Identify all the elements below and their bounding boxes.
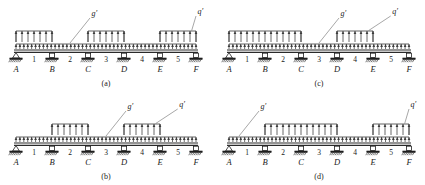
ground-hatch — [331, 59, 333, 62]
roller-block — [370, 53, 375, 57]
dead-load-arrow-head — [120, 137, 123, 140]
ground-hatch — [339, 59, 341, 62]
dead-load-arrow-head — [163, 137, 166, 140]
span-label-2: 2 — [68, 55, 72, 64]
ground-hatch — [45, 59, 47, 62]
ground-hatch — [405, 59, 407, 62]
dead-load-arrow-head — [187, 44, 190, 47]
dead-load-arrow-head — [333, 44, 336, 47]
dead-load-arrow-head — [259, 44, 262, 47]
ground-hatch — [189, 59, 191, 62]
live-load-q-prime — [264, 124, 411, 135]
ground-hatch — [409, 152, 411, 155]
ground-hatch — [231, 152, 233, 155]
support-c — [81, 53, 95, 62]
dead-load-arrow-head — [62, 137, 65, 140]
live-load-leader — [369, 16, 391, 31]
live-load-arrow-head — [33, 31, 36, 34]
live-load-arrow-head — [360, 31, 363, 34]
ground-hatch — [412, 59, 414, 62]
ground-bar — [118, 58, 130, 59]
live-load-arrow-head — [63, 124, 66, 127]
support-f — [402, 53, 416, 62]
panel-b-drawing: ABCDEF12345g′q′(b) — [0, 93, 212, 185]
support-label-b: B — [49, 64, 54, 74]
dead-load-arrow-head — [54, 137, 57, 140]
dead-load-arrow-head — [19, 44, 22, 47]
ground-bar — [223, 151, 235, 152]
ground-hatch — [162, 59, 164, 62]
ground-hatch — [411, 59, 413, 62]
ground-hatch — [190, 152, 192, 155]
ground-hatch — [199, 59, 201, 62]
ground-hatch — [124, 152, 126, 155]
live-load-arrow-head — [372, 124, 375, 127]
dead-load-arrow-head — [152, 137, 155, 140]
panel-d: ABCDEF12345g′q′(d) — [213, 93, 425, 185]
ground-bar — [331, 58, 343, 59]
dead-load-arrow-head — [380, 44, 383, 47]
live-load-arrow-head — [171, 31, 174, 34]
dead-load-arrow-head — [372, 44, 375, 47]
panel-a: ABCDEF12345g′q′(a) — [0, 0, 212, 92]
ground-hatch — [16, 152, 18, 155]
ground-hatch — [122, 59, 124, 62]
dead-load-arrow-head — [26, 44, 29, 47]
dead-load-arrow-head — [195, 44, 198, 47]
support-label-d: D — [333, 64, 341, 74]
live-load-arrow-head — [123, 124, 126, 127]
roller-block — [298, 146, 303, 150]
live-load-arrow-head — [159, 124, 162, 127]
support-label-b: B — [262, 157, 267, 167]
ground-hatch — [156, 152, 158, 155]
dead-load-label: g′ — [341, 9, 347, 18]
ground-hatch — [376, 152, 378, 155]
span-label-4: 4 — [353, 148, 357, 157]
ground-hatch — [162, 152, 164, 155]
ground-hatch — [46, 59, 48, 62]
span-label-5: 5 — [389, 148, 393, 157]
ground-hatch — [231, 59, 233, 62]
ground-hatch — [223, 152, 225, 155]
ground-hatch — [335, 59, 337, 62]
ground-bar — [154, 58, 166, 59]
dead-load-arrow-head — [369, 44, 372, 47]
dead-load-arrow-head — [251, 137, 254, 140]
ground-hatch — [367, 152, 369, 155]
ground-hatch — [331, 152, 333, 155]
dead-load-arrow-head — [77, 44, 80, 47]
ground-hatch — [402, 152, 404, 155]
ground-hatch — [12, 152, 14, 155]
ground-hatch — [88, 152, 90, 155]
ground-hatch — [82, 59, 84, 62]
dead-load-arrow-head — [93, 137, 96, 140]
live-load-arrow-head — [312, 124, 315, 127]
dead-load-arrow-head — [228, 44, 231, 47]
dead-load-arrow-head — [132, 44, 135, 47]
panel-b: ABCDEF12345g′q′(b) — [0, 93, 212, 185]
dead-load-arrow-head — [124, 137, 127, 140]
ground-hatch — [340, 59, 342, 62]
dead-load-arrow-head — [50, 137, 53, 140]
support-label-a: A — [12, 64, 19, 74]
dead-load-arrow-head — [318, 44, 321, 47]
live-load-arrow-head — [306, 124, 309, 127]
ground-hatch — [19, 152, 21, 155]
live-load-arrow-head — [270, 124, 273, 127]
live-load-arrow-head — [228, 31, 231, 34]
ground-hatch — [303, 59, 305, 62]
live-load-arrow-head — [135, 124, 138, 127]
dead-load-arrow-head — [341, 44, 344, 47]
dead-load-arrow-head — [345, 44, 348, 47]
live-load-arrow-head — [240, 31, 243, 34]
ground-hatch — [48, 59, 50, 62]
ground-hatch — [225, 152, 227, 155]
dead-load-arrow-head — [232, 44, 235, 47]
ground-hatch — [294, 152, 296, 155]
roller-block — [406, 53, 411, 57]
dead-load-leader — [239, 111, 259, 136]
live-load-arrow-head — [300, 31, 303, 34]
ground-hatch — [366, 59, 368, 62]
ground-bar — [190, 151, 202, 152]
dead-load-arrow-head — [109, 44, 112, 47]
